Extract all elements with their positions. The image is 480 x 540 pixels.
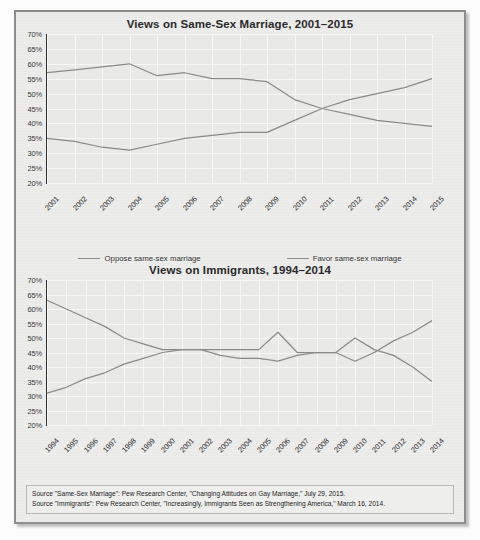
y-axis-tick-label: 70% <box>28 276 42 285</box>
y-axis-tick-label: 35% <box>28 377 42 386</box>
source-line-2: Source "Immigrants": Pew Research Center… <box>32 499 448 509</box>
x-axis-tick-label: 2013 <box>373 194 391 212</box>
source-line-1: Source "Same-Sex Marriage": Pew Research… <box>32 489 448 499</box>
x-axis-tick-label: 2015 <box>428 194 446 212</box>
x-axis-tick-label: 1996 <box>82 436 100 454</box>
gridline-horizontal <box>47 425 432 426</box>
x-axis-tick-label: 1999 <box>139 436 157 454</box>
legend-item[interactable]: Oppose same-sex marriage <box>78 254 200 263</box>
y-axis-tick-label: 40% <box>28 119 42 128</box>
x-axis-tick-label: 2008 <box>236 194 254 212</box>
y-axis-tick-label: 30% <box>28 392 42 401</box>
screenshot-root: Views on Same-Sex Marriage, 2001–2015 70… <box>0 0 480 540</box>
chart-title: Views on Immigrants, 1994–2014 <box>16 264 464 276</box>
legend-line-swatch <box>287 258 309 259</box>
series-line <box>47 321 432 394</box>
source-note: Source "Same-Sex Marriage": Pew Research… <box>26 485 454 514</box>
y-axis-tick-label: 45% <box>28 348 42 357</box>
x-axis-tick-label: 2000 <box>159 436 177 454</box>
x-axis-tick-label: 2008 <box>313 436 331 454</box>
series-canvas <box>47 34 432 183</box>
x-axis-tick-label: 2007 <box>208 194 226 212</box>
y-axis-tick-label: 50% <box>28 334 42 343</box>
plot-area-wrapper: 70%65%60%55%50%45%40%35%30%25%20%1994199… <box>16 280 464 485</box>
x-axis-tick-label: 1994 <box>43 436 61 454</box>
y-axis-tick-label: 60% <box>28 59 42 68</box>
plot-area-wrapper: 70%65%60%55%50%45%40%35%30%25%20%2001200… <box>16 34 464 243</box>
series-line <box>47 79 432 151</box>
chart-block-same-sex-marriage: Views on Same-Sex Marriage, 2001–2015 70… <box>16 18 464 260</box>
x-axis-tick-label: 2014 <box>428 436 446 454</box>
x-axis-tick-label: 1997 <box>101 436 119 454</box>
series-line <box>47 64 432 127</box>
chart-legend: Oppose same-sex marriageFavor same-sex m… <box>16 254 464 263</box>
chart-block-immigrants: Views on Immigrants, 1994–2014 70%65%60%… <box>16 264 464 502</box>
y-axis-tick-label: 40% <box>28 363 42 372</box>
x-axis-tick-label: 2001 <box>178 436 196 454</box>
x-axis-tick-label: 2014 <box>401 194 419 212</box>
plot-area <box>46 34 432 184</box>
y-axis-ticks: 70%65%60%55%50%45%40%35%30%25%20% <box>16 34 44 183</box>
y-axis-ticks: 70%65%60%55%50%45%40%35%30%25%20% <box>16 280 44 425</box>
x-axis-tick-label: 2003 <box>216 436 234 454</box>
plot-area <box>46 280 432 426</box>
y-axis-tick-label: 25% <box>28 164 42 173</box>
y-axis-tick-label: 35% <box>28 134 42 143</box>
x-axis-tick-label: 2006 <box>274 436 292 454</box>
x-axis-tick-label: 2005 <box>153 194 171 212</box>
gridline-horizontal <box>47 183 432 184</box>
y-axis-tick-label: 50% <box>28 89 42 98</box>
x-axis-tick-label: 2002 <box>197 436 215 454</box>
x-axis-tick-label: 2004 <box>126 194 144 212</box>
y-axis-tick-label: 55% <box>28 74 42 83</box>
gridline-vertical <box>432 34 433 183</box>
y-axis-tick-label: 65% <box>28 290 42 299</box>
x-axis-tick-label: 2002 <box>71 194 89 212</box>
gridline-vertical <box>432 280 433 425</box>
y-axis-tick-label: 60% <box>28 305 42 314</box>
x-axis-tick-label: 2010 <box>351 436 369 454</box>
y-axis-tick-label: 65% <box>28 44 42 53</box>
x-axis-tick-label: 2010 <box>291 194 309 212</box>
x-axis-tick-label: 2012 <box>390 436 408 454</box>
y-axis-tick-label: 20% <box>28 421 42 430</box>
y-axis-tick-label: 55% <box>28 319 42 328</box>
legend-line-swatch <box>78 258 100 259</box>
x-axis-tick-label: 2004 <box>236 436 254 454</box>
series-line <box>47 300 432 381</box>
x-axis-tick-label: 2007 <box>293 436 311 454</box>
series-canvas <box>47 280 432 425</box>
x-axis-tick-label: 2006 <box>181 194 199 212</box>
x-axis-tick-label: 2005 <box>255 436 273 454</box>
y-axis-tick-label: 70% <box>28 30 42 39</box>
y-axis-tick-label: 30% <box>28 149 42 158</box>
x-axis-tick-label: 2013 <box>409 436 427 454</box>
x-axis-tick-label: 2003 <box>98 194 116 212</box>
figure-panel: Views on Same-Sex Marriage, 2001–2015 70… <box>14 10 466 524</box>
x-axis-tick-label: 1995 <box>62 436 80 454</box>
legend-item[interactable]: Favor same-sex marriage <box>287 254 402 263</box>
x-axis-tick-label: 2009 <box>332 436 350 454</box>
y-axis-tick-label: 45% <box>28 104 42 113</box>
legend-label: Oppose same-sex marriage <box>104 254 200 263</box>
chart-title: Views on Same-Sex Marriage, 2001–2015 <box>16 18 464 30</box>
y-axis-tick-label: 25% <box>28 406 42 415</box>
y-axis-tick-label: 20% <box>28 179 42 188</box>
x-axis-tick-label: 2009 <box>263 194 281 212</box>
x-axis-tick-label: 2011 <box>370 437 387 454</box>
legend-label: Favor same-sex marriage <box>313 254 402 263</box>
x-axis-tick-label: 1998 <box>120 436 138 454</box>
x-axis-tick-label: 2011 <box>318 195 335 212</box>
x-axis-tick-label: 2012 <box>346 194 364 212</box>
x-axis-tick-label: 2001 <box>43 194 61 212</box>
